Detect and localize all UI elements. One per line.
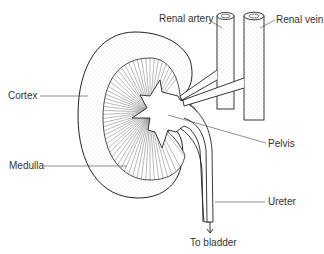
label-renal-artery: Renal artery: [159, 13, 213, 25]
label-to-bladder: To bladder: [190, 237, 237, 249]
label-ureter: Ureter: [268, 196, 296, 208]
label-renal-vein: Renal vein: [276, 14, 323, 26]
ureter: [182, 100, 213, 222]
label-cortex: Cortex: [8, 90, 37, 102]
kidney-diagram: [0, 0, 324, 254]
label-pelvis: Pelvis: [268, 138, 295, 150]
label-medulla: Medulla: [9, 160, 44, 172]
